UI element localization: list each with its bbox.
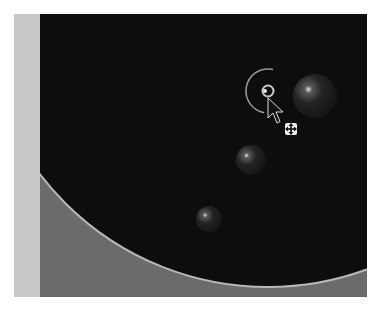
sphere-right[interactable] [293, 74, 337, 118]
sphere-middle[interactable] [236, 145, 266, 175]
scene-graphics [14, 14, 367, 297]
sphere-lower[interactable] [196, 206, 222, 232]
handle-highlight-icon [263, 89, 267, 93]
large-dark-sphere[interactable] [14, 14, 367, 287]
move-cross-icon [285, 123, 297, 135]
viewport-canvas[interactable] [14, 14, 367, 297]
